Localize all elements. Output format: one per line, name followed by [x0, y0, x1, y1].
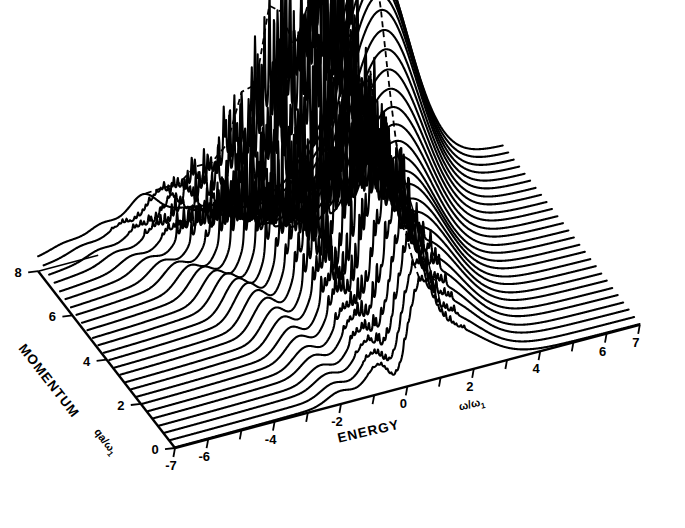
momentum-tick	[28, 271, 38, 272]
spectrum-trace	[159, 205, 624, 426]
energy-tick-label--2: -2	[331, 414, 343, 429]
energy-tick-label-4: 4	[533, 361, 541, 376]
momentum-tick-label-8: 8	[15, 265, 22, 280]
energy-tick-label-7: 7	[632, 335, 639, 350]
energy-tick-label-6: 6	[599, 344, 606, 359]
momentum-tick	[97, 360, 107, 361]
energy-axis-title: ENERGY	[336, 417, 401, 446]
spectrum-trace	[175, 276, 640, 448]
energy-tick-label--7: -7	[165, 458, 177, 473]
spectrum-trace	[164, 231, 629, 433]
waterfall-figure: -7-6-4-20246702468ENERGYω/ω1MOMENTUMqa/ω…	[0, 0, 685, 528]
energy-axis-subscript: 1	[480, 401, 487, 411]
momentum-tick	[62, 315, 72, 316]
energy-tick-label--4: -4	[265, 432, 277, 447]
energy-tick	[173, 448, 175, 457]
momentum-tick-label-4: 4	[83, 354, 91, 369]
plot-canvas: -7-6-4-20246702468ENERGYω/ω1MOMENTUMqa/ω…	[0, 0, 685, 528]
energy-tick-label-2: 2	[466, 379, 473, 394]
momentum-tick	[131, 404, 141, 405]
energy-tick-label--6: -6	[198, 449, 210, 464]
momentum-axis-subscript: 1	[105, 450, 115, 459]
energy-tick-label-0: 0	[400, 396, 407, 411]
trace-lines-group	[38, 0, 639, 447]
momentum-tick-label-0: 0	[151, 442, 158, 457]
momentum-tick-label-6: 6	[49, 309, 56, 324]
energy-axis-symbol: ω/ω1	[458, 395, 487, 416]
momentum-axis-title: MOMENTUM	[16, 341, 83, 420]
momentum-tick-label-2: 2	[117, 398, 124, 413]
momentum-axis-symbol: qa/ω1	[90, 426, 120, 459]
momentum-tick	[165, 448, 175, 449]
